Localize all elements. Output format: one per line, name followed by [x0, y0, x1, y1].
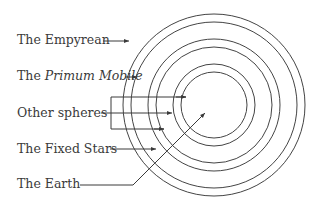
spheres-diagram: [0, 0, 313, 209]
circle-empyrean: [123, 14, 305, 196]
concentric-circles: [123, 14, 305, 196]
circle-sphere-c: [181, 72, 247, 138]
circle-sphere-b: [173, 64, 255, 146]
circle-fixed-stars: [148, 39, 280, 171]
